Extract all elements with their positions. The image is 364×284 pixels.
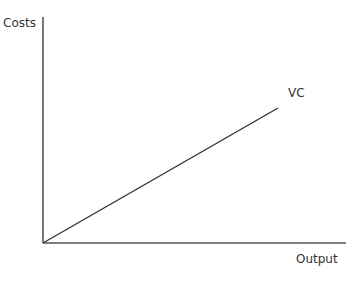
chart-canvas xyxy=(0,0,364,284)
y-axis-label: Costs xyxy=(3,16,36,30)
vc-series-label: VC xyxy=(288,86,305,100)
x-axis-label: Output xyxy=(296,252,338,266)
vc-line xyxy=(43,108,278,243)
